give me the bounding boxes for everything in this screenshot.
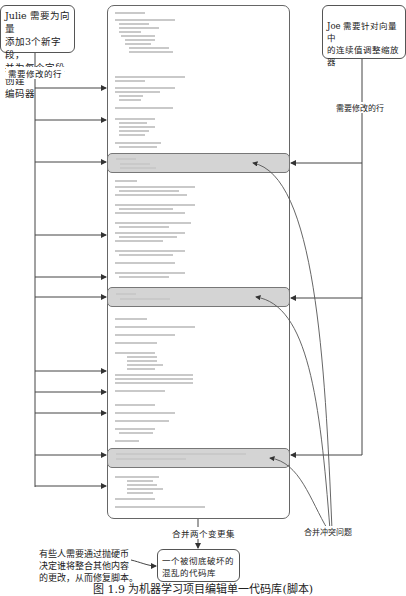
joe-text-line: 的连续值调整缩放器 (327, 44, 402, 68)
result-text-line: 一个被彻底破坏的 (162, 555, 235, 567)
joe-task-box: Joe 需要针对向量中 的连续值调整缩放器 (322, 5, 406, 59)
left-lines-to-modify-label: 需要修改的行 (6, 67, 64, 79)
joe-text-line: Joe 需要针对向量中 (327, 20, 402, 44)
julie-text-line: Julie 需要为向量 (5, 9, 70, 35)
coin-toss-note: 有些人需要通过抛硬币 决定谁将整合其他内容 的更改，从而修复脚本。 (39, 548, 138, 584)
broken-codebase-box: 一个被彻底破坏的 混乱的代码库 (157, 549, 240, 582)
figure-caption: 图 1.9 为机器学习项目编辑单一代码库(脚本) (0, 580, 406, 596)
merge-changesets-label: 合并两个变更集 (170, 527, 237, 539)
julie-text-line: 添加3个新字段， (5, 35, 70, 61)
merge-conflict-label: 合并冲突问题 (302, 526, 354, 537)
note-text-line: 有些人需要通过抛硬币 (39, 548, 138, 560)
result-text-line: 混乱的代码库 (162, 567, 235, 579)
julie-text-line: 编码器 (5, 87, 70, 100)
right-lines-to-modify-label: 需要修改的行 (334, 102, 386, 113)
julie-task-box: Julie 需要为向量 添加3个新字段， 并为每个字段创建 编码器 (0, 5, 75, 53)
note-text-line: 决定谁将整合其他内容 (39, 560, 138, 572)
